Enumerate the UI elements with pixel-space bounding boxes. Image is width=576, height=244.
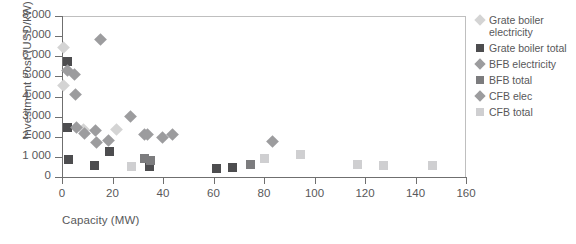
square-marker-icon xyxy=(476,108,484,116)
data-point xyxy=(296,150,305,159)
square-marker-icon xyxy=(476,76,484,84)
x-tick-label: 100 xyxy=(295,187,335,199)
y-tick-mark xyxy=(55,157,62,158)
data-point xyxy=(353,160,362,169)
data-point xyxy=(246,160,255,169)
chart-root: Investment cost (USD/kW) Capacity (MW) 0… xyxy=(0,0,576,244)
data-point xyxy=(64,155,73,164)
y-tick-label: 7 000 xyxy=(3,28,51,40)
x-tick-label: 160 xyxy=(446,187,486,199)
x-tick-mark xyxy=(315,177,316,184)
x-tick-label: 60 xyxy=(194,187,234,199)
x-tick-mark xyxy=(62,177,63,184)
x-tick-label: 80 xyxy=(244,187,284,199)
y-tick-mark xyxy=(55,97,62,98)
data-point xyxy=(90,161,99,170)
x-tick-mark xyxy=(163,177,164,184)
x-tick-mark xyxy=(264,177,265,184)
x-tick-label: 140 xyxy=(396,187,436,199)
square-marker-icon xyxy=(476,44,484,52)
y-tick-label: 4 000 xyxy=(3,89,51,101)
legend-item[interactable]: Grate boiler total xyxy=(476,42,576,54)
x-tick-label: 20 xyxy=(93,187,133,199)
y-tick-mark xyxy=(55,137,62,138)
legend-item-label: CFB elec xyxy=(489,90,576,102)
x-axis-title: Capacity (MW) xyxy=(62,214,139,226)
data-point xyxy=(260,154,269,163)
y-tick-mark xyxy=(55,76,62,77)
legend-item-label: CFB total xyxy=(489,106,576,118)
y-tick-mark xyxy=(55,177,62,178)
legend-item-label: Grate boiler total xyxy=(489,42,576,54)
data-point xyxy=(212,164,221,173)
x-tick-label: 120 xyxy=(345,187,385,199)
legend-item-label: Grate boiler electricity xyxy=(489,14,576,38)
diamond-marker-icon xyxy=(474,90,485,101)
x-tick-mark xyxy=(214,177,215,184)
x-tick-mark xyxy=(365,177,366,184)
x-tick-mark xyxy=(416,177,417,184)
data-point xyxy=(127,162,136,171)
y-tick-label: 3 000 xyxy=(3,109,51,121)
legend-item[interactable]: BFB total xyxy=(476,74,576,86)
y-tick-label: 0 xyxy=(3,169,51,181)
legend: Grate boiler electricityGrate boiler tot… xyxy=(476,14,576,122)
legend-item[interactable]: CFB elec xyxy=(476,90,576,102)
legend-item-label: BFB electricity xyxy=(489,58,576,70)
diamond-marker-icon xyxy=(474,58,485,69)
y-tick-mark xyxy=(55,117,62,118)
legend-item[interactable]: CFB total xyxy=(476,106,576,118)
x-tick-mark xyxy=(113,177,114,184)
data-point xyxy=(146,156,155,165)
y-tick-mark xyxy=(55,16,62,17)
x-tick-label: 40 xyxy=(143,187,183,199)
legend-item[interactable]: BFB electricity xyxy=(476,58,576,70)
legend-item-label: BFB total xyxy=(489,74,576,86)
data-point xyxy=(428,161,437,170)
y-tick-mark xyxy=(55,56,62,57)
diamond-marker-icon xyxy=(474,14,485,25)
data-point xyxy=(379,161,388,170)
data-point xyxy=(228,163,237,172)
y-tick-mark xyxy=(55,36,62,37)
x-tick-mark xyxy=(466,177,467,184)
data-point xyxy=(105,147,114,156)
y-tick-label: 1 000 xyxy=(3,149,51,161)
y-tick-label: 2 000 xyxy=(3,129,51,141)
x-tick-label: 0 xyxy=(42,187,82,199)
legend-item[interactable]: Grate boiler electricity xyxy=(476,14,576,38)
y-tick-label: 8 000 xyxy=(3,8,51,20)
y-tick-label: 6 000 xyxy=(3,48,51,60)
y-tick-label: 5 000 xyxy=(3,68,51,80)
